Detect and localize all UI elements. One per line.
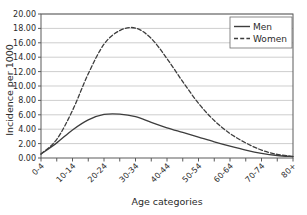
chart-container: 0.002.004.006.008.0010.0012.0014.0016.00… [0,0,307,215]
incidence-by-age-line-chart: 0.002.004.006.008.0010.0012.0014.0016.00… [0,0,307,215]
y-tick-label: 10.00 [13,82,36,91]
legend-label-women: Women [253,34,287,44]
y-tick-label: 12.00 [13,68,36,77]
y-tick-label: 4.00 [18,125,36,134]
y-tick-label: 2.00 [18,140,36,149]
y-tick-label: 16.00 [13,39,36,48]
chart-legend: Men Women [230,17,292,48]
y-tick-label: 6.00 [18,111,36,120]
y-tick-label: 8.00 [18,96,36,105]
y-tick-label: 0.00 [18,154,36,163]
y-tick-label: 18.00 [13,24,36,33]
x-axis-title: Age categories [131,196,202,207]
y-axis-title: Incidence per 1000 [4,44,15,136]
y-tick-label: 14.00 [13,53,36,62]
y-tick-label: 20.00 [13,10,36,19]
legend-label-men: Men [253,22,272,32]
